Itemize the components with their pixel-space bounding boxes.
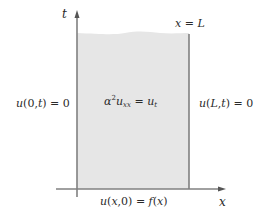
right-boundary-condition: u(L,t) = 0 (199, 98, 253, 109)
right-boundary-label: x = L (175, 18, 205, 29)
x-axis-label: x (219, 196, 226, 208)
left-boundary-condition: u(0,t) = 0 (16, 98, 70, 109)
t-axis-arrow-icon (75, 10, 80, 18)
t-axis-label: t (62, 8, 67, 20)
x-axis-arrow-icon (218, 187, 226, 192)
initial-condition: u(x,0) = f(x) (100, 196, 168, 207)
domain-region (77, 31, 189, 189)
pde-label: α2uxx = ut (104, 96, 157, 107)
heat-equation-diagram: t x = L u(0,t) = 0 α2uxx = ut u(L,t) = 0… (0, 0, 265, 221)
diagram-canvas (0, 0, 265, 221)
